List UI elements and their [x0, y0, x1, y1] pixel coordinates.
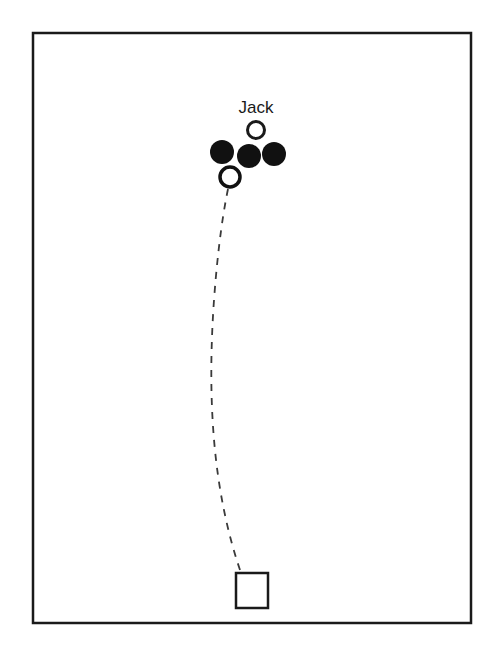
ball-thrown-boule [220, 167, 240, 187]
ball-boule-left [210, 140, 234, 164]
labels-group: Jack [239, 98, 274, 117]
ball-boule-right [262, 142, 286, 166]
ball-boule-center [237, 144, 261, 168]
ball-jack-ball [248, 122, 265, 139]
jack-label: Jack [239, 98, 274, 117]
diagram-root: Jack [0, 0, 496, 654]
diagram-canvas: Jack [0, 0, 496, 654]
